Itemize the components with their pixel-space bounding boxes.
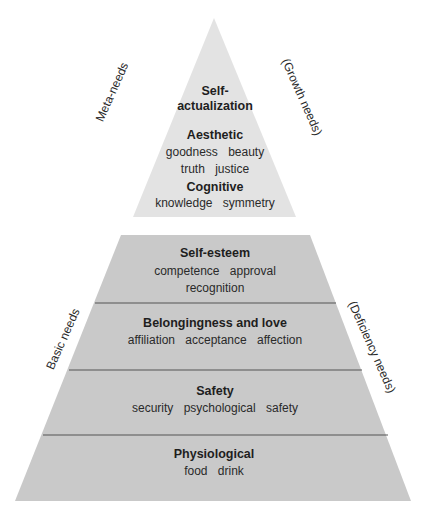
- level-aesthetic-title: Aesthetic: [187, 128, 243, 143]
- level-aesthetic-items: goodness beauty truth justice: [166, 144, 264, 178]
- items-line: recognition: [154, 280, 276, 297]
- level-safety-items: security psychological safety: [132, 400, 298, 417]
- level-self-actualization-title: Self- actualization: [177, 84, 253, 114]
- level-physiological-title: Physiological: [174, 447, 255, 462]
- items-line: competence approval: [154, 263, 276, 280]
- level-self-esteem-title: Self-esteem: [180, 246, 250, 261]
- title-line: actualization: [177, 99, 253, 114]
- level-cognitive-items: knowledge symmetry: [155, 195, 275, 212]
- level-belongingness-title: Belongingness and love: [143, 316, 287, 331]
- level-physiological-items: food drink: [184, 463, 244, 480]
- items-line: goodness beauty: [166, 144, 264, 161]
- level-safety-title: Safety: [196, 384, 234, 399]
- items-line: truth justice: [166, 161, 264, 178]
- level-cognitive-title: Cognitive: [187, 180, 244, 195]
- level-self-esteem-items: competence approval recognition: [154, 263, 276, 297]
- title-line: Self-: [177, 84, 253, 99]
- level-belongingness-items: affiliation acceptance affection: [128, 332, 302, 349]
